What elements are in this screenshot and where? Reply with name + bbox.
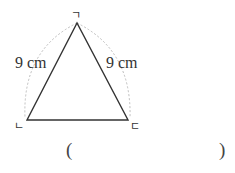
- vertex-label-top: ㄱ: [71, 9, 81, 21]
- answer-open-paren: (: [66, 139, 72, 161]
- answer-close-paren: ): [219, 139, 225, 161]
- side-label-left: 9 cm: [15, 54, 47, 71]
- side-label-right: 9 cm: [106, 54, 138, 71]
- vertex-label-bottom-right: ㄷ: [130, 120, 140, 132]
- vertex-label-bottom-left: ㄴ: [14, 120, 24, 132]
- triangle: [27, 23, 128, 120]
- answer-blank[interactable]: [78, 141, 216, 163]
